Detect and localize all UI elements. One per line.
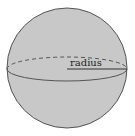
radius-label: radius xyxy=(70,57,102,68)
sphere-outline xyxy=(7,8,127,128)
sphere-diagram: radius xyxy=(0,0,135,136)
